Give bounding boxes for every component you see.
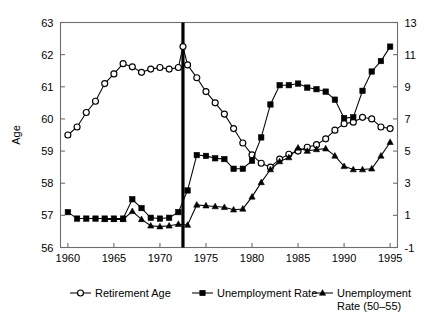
data-point-marker [65,132,71,138]
data-point-marker [295,81,300,86]
data-point-marker [74,124,80,130]
y-left-tick-label: 56 [41,242,53,254]
data-point-marker [240,166,245,171]
y-right-tick-label: 1 [405,209,411,221]
plot-area-border [61,23,398,248]
legend-marker [200,290,205,295]
x-tick-label: 1990 [332,252,356,264]
data-point-marker [111,71,117,77]
x-tick-label: 1960 [56,252,80,264]
y-left-tick-label: 62 [41,49,53,61]
y-right-tick-label: -1 [405,242,415,254]
y-right-tick-label: 11 [405,49,416,61]
legend-label-line2: Rate (50–55) [337,300,401,312]
chart-canvas: 19601965197019751980198519901995 5657585… [0,0,436,327]
axis-titles: Age [10,125,22,145]
y-axis-right-ticks: -1135791113 [393,17,417,254]
data-point-marker [203,153,208,158]
y-right-tick-label: 9 [405,81,411,93]
data-point-marker [139,69,145,75]
data-point-marker [378,58,383,63]
data-point-marker [166,66,172,72]
x-tick-label: 1965 [102,252,126,264]
data-point-marker [323,136,329,142]
y-left-tick-label: 57 [41,209,53,221]
x-tick-label: 1985 [286,252,310,264]
data-point-marker [323,145,329,151]
data-point-marker [185,62,191,68]
y-right-tick-label: 5 [405,145,411,157]
legend-layer: Retirement AgeUnemployment RateUnemploym… [70,287,411,312]
data-point-marker [240,140,246,146]
y-right-tick-label: 3 [405,177,411,189]
legend-label: Unemployment [337,287,411,299]
data-point-marker [351,115,356,120]
legend-item-1: Retirement Age [70,287,171,299]
data-point-marker [92,98,98,104]
data-point-marker [231,126,237,132]
data-point-marker [212,100,218,106]
y-axis-left-title: Age [10,125,22,145]
y-left-tick-label: 61 [41,81,53,93]
data-point-marker [258,160,264,166]
data-point-marker [84,216,89,221]
data-point-marker [369,116,375,122]
data-point-marker [175,65,181,71]
data-point-marker [212,156,217,161]
data-point-marker [120,61,126,67]
legend-marker [319,290,325,296]
data-point-marker [157,65,163,71]
data-point-marker [332,97,337,102]
x-tick-label: 1980 [240,252,264,264]
data-point-marker [305,85,310,90]
data-point-marker [387,126,393,132]
series-1 [65,44,393,171]
data-point-marker [194,202,200,208]
data-point-marker [222,156,227,161]
data-point-marker [180,44,186,50]
data-point-marker [93,216,98,221]
series-3 [102,139,394,229]
y-axis-left-ticks: 5657585960616263 [41,17,65,254]
data-point-marker [231,166,236,171]
y-left-tick-label: 60 [41,113,53,125]
data-point-marker [166,215,171,220]
legend-marker [78,290,84,296]
data-point-marker [332,127,338,133]
data-point-marker [360,114,366,120]
data-point-marker [249,158,254,163]
data-point-marker [259,135,264,140]
chart-figure: 19601965197019751980198519901995 5657585… [0,0,436,327]
y-right-tick-label: 13 [405,17,417,29]
data-point-marker [148,215,153,220]
data-point-marker [65,209,70,214]
series-layer [65,44,393,229]
data-point-marker [332,153,338,159]
data-point-marker [387,44,392,49]
plot-frame [61,23,398,248]
data-point-marker [341,121,347,127]
data-point-marker [148,222,154,228]
data-point-marker [83,110,89,116]
data-point-marker [102,81,108,87]
x-axis-ticks: 19601965197019751980198519901995 [56,243,403,264]
data-point-marker [129,208,135,214]
data-point-marker [175,221,181,227]
data-point-marker [139,205,144,210]
data-point-marker [323,89,328,94]
y-left-tick-label: 63 [41,17,53,29]
y-right-tick-label: 7 [405,113,411,125]
series-line [68,47,390,168]
data-point-marker [194,75,200,81]
legend-item-2: Unemployment Rate [192,287,317,299]
data-point-marker [387,139,393,145]
data-point-marker [203,89,209,95]
data-point-marker [341,115,346,120]
legend-item-3: UnemploymentRate (50–55) [312,287,411,312]
legend-label: Unemployment Rate [217,287,317,299]
x-tick-label: 1975 [194,252,218,264]
y-left-tick-label: 59 [41,145,53,157]
data-point-marker [369,69,374,74]
data-point-marker [194,152,199,157]
data-point-marker [360,88,365,93]
